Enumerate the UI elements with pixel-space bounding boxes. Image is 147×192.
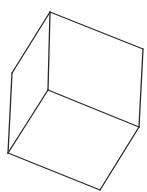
cube-edge-left_top-left_bottom <box>8 73 12 153</box>
cube-edge-top-right_top <box>50 12 143 49</box>
cube-diagram <box>0 0 147 192</box>
cube-edge-top-left_top <box>12 12 50 73</box>
cube-edge-right_bottom-bottom <box>100 127 139 190</box>
cube-edge-back-left_bottom <box>8 90 48 153</box>
cube-edges <box>8 12 143 190</box>
cube-edge-left_bottom-bottom <box>8 153 100 190</box>
cube-edge-top-back <box>48 12 50 90</box>
cube-edge-back-right_bottom <box>48 90 139 127</box>
cube-edge-right_top-right_bottom <box>139 49 143 127</box>
